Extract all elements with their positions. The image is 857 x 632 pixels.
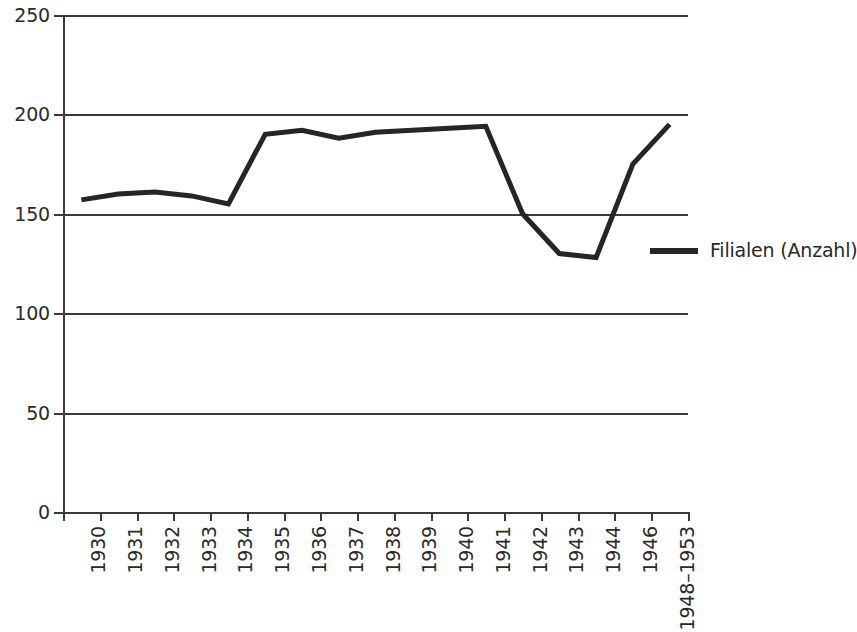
- gridline-200: [63, 114, 688, 116]
- x-axis-label: 1948–1953: [678, 526, 697, 630]
- y-tick-200: [54, 114, 64, 116]
- x-tick: [614, 512, 616, 521]
- x-axis-label: 1944: [604, 526, 623, 574]
- gridline-50: [63, 413, 688, 415]
- legend: Filialen (Anzahl): [650, 241, 857, 260]
- legend-line-swatch: [650, 248, 698, 254]
- x-axis-label: 1941: [494, 526, 513, 574]
- y-axis-label: 200: [4, 105, 50, 124]
- y-tick-250: [54, 15, 64, 17]
- x-tick: [284, 512, 286, 521]
- x-tick: [467, 512, 469, 521]
- x-axis-label: 1932: [163, 526, 182, 574]
- x-tick: [651, 512, 653, 521]
- x-tick: [247, 512, 249, 521]
- plot-area: [63, 15, 688, 512]
- x-axis-label: 1943: [567, 526, 586, 574]
- y-axis-label: 50: [4, 404, 50, 423]
- x-tick: [578, 512, 580, 521]
- x-axis-label: 1933: [200, 526, 219, 574]
- gridline-0: [63, 512, 688, 514]
- x-axis-label: 1938: [384, 526, 403, 574]
- x-tick: [63, 512, 65, 521]
- x-tick: [357, 512, 359, 521]
- x-axis-label: 1940: [457, 526, 476, 574]
- x-tick: [394, 512, 396, 521]
- x-tick: [137, 512, 139, 521]
- y-axis-labels: 250 200 150 100 50 0: [0, 0, 50, 632]
- x-tick: [173, 512, 175, 521]
- y-tick-50: [54, 413, 64, 415]
- x-axis-label: 1946: [641, 526, 660, 574]
- y-tick-150: [54, 214, 64, 216]
- y-axis-label: 100: [4, 304, 50, 323]
- legend-label: Filialen (Anzahl): [710, 241, 857, 260]
- x-tick: [688, 512, 690, 521]
- x-axis-label: 1935: [273, 526, 292, 574]
- x-axis-label: 1936: [310, 526, 329, 574]
- y-axis-line: [63, 15, 65, 512]
- y-axis-label: 0: [4, 503, 50, 522]
- x-tick: [210, 512, 212, 521]
- y-axis-label: 250: [4, 6, 50, 25]
- gridline-150: [63, 214, 688, 216]
- x-axis-label: 1937: [347, 526, 366, 574]
- gridline-100: [63, 313, 688, 315]
- y-axis-label: 150: [4, 205, 50, 224]
- x-axis-label: 1939: [420, 526, 439, 574]
- y-tick-100: [54, 313, 64, 315]
- x-tick: [100, 512, 102, 521]
- x-axis-label: 1942: [531, 526, 550, 574]
- gridline-250: [63, 15, 688, 17]
- x-axis-label: 1931: [126, 526, 145, 574]
- x-tick: [504, 512, 506, 521]
- x-tick: [320, 512, 322, 521]
- x-axis-label: 1930: [89, 526, 108, 574]
- x-tick: [541, 512, 543, 521]
- x-axis-label: 1934: [236, 526, 255, 574]
- x-tick: [431, 512, 433, 521]
